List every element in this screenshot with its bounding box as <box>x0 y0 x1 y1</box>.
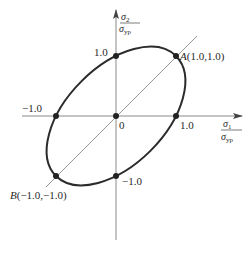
tick-label-y-pos: 1.0 <box>94 46 108 58</box>
point-x-neg <box>53 113 59 119</box>
point-y-neg <box>113 173 119 179</box>
tick-label-x-neg: −1.0 <box>22 102 42 114</box>
x-axis-label: σ1 σyp <box>221 118 242 144</box>
yield-ellipse-diagram: 1.0 −1.0 0 1.0 −1.0 A(1.0,1.0) B(−1.0,−1… <box>0 0 250 257</box>
svg-text:σyp: σyp <box>221 131 233 144</box>
point-A <box>173 53 179 59</box>
svg-text:σ1: σ1 <box>223 118 232 131</box>
tick-label-x-pos: 1.0 <box>180 119 194 131</box>
point-x-pos <box>173 113 179 119</box>
tick-label-origin: 0 <box>119 119 125 131</box>
tick-label-y-neg: −1.0 <box>122 175 142 187</box>
point-y-pos <box>113 53 119 59</box>
point-label-B: B(−1.0,−1.0) <box>10 189 67 202</box>
point-label-A: A(1.0,1.0) <box>179 50 225 63</box>
y-axis-label: σ2 σyp <box>119 11 140 36</box>
diagonal-line <box>46 36 197 187</box>
svg-text:σyp: σyp <box>119 23 131 36</box>
point-B <box>53 173 59 179</box>
